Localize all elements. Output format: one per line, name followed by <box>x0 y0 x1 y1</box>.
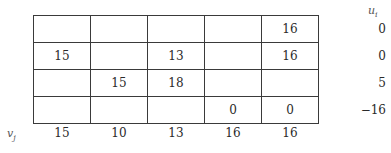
table-cell: 16 <box>262 43 319 70</box>
table-row: 15 13 16 <box>34 43 319 70</box>
v-value: 16 <box>262 126 318 140</box>
u-value: 5 <box>326 76 386 90</box>
u-value: −16 <box>326 103 386 117</box>
table-cell: 0 <box>205 97 262 124</box>
table-row: 0 0 <box>34 97 319 124</box>
table-cell: 15 <box>91 70 148 97</box>
table-row: 16 <box>34 16 319 43</box>
u-value: 0 <box>326 22 386 36</box>
v-value: 16 <box>205 126 261 140</box>
v-value: 15 <box>34 126 90 140</box>
table-cell <box>205 16 262 43</box>
table-cell <box>148 97 205 124</box>
table-cell: 0 <box>262 97 319 124</box>
v-label: vj <box>7 127 16 142</box>
table-cell <box>91 97 148 124</box>
table-cell <box>91 16 148 43</box>
table-cell <box>205 43 262 70</box>
table-cell: 15 <box>34 43 91 70</box>
table-cell <box>262 70 319 97</box>
table-cell <box>148 16 205 43</box>
v-value: 13 <box>148 126 204 140</box>
table-cell: 13 <box>148 43 205 70</box>
table-cell: 16 <box>262 16 319 43</box>
table-cell <box>34 70 91 97</box>
transportation-table: 16 15 13 16 15 18 0 0 <box>33 15 319 124</box>
v-value: 10 <box>91 126 147 140</box>
table-row: 15 18 <box>34 70 319 97</box>
u-label: ui <box>368 4 378 19</box>
table-cell <box>205 70 262 97</box>
table-cell <box>91 43 148 70</box>
table-cell <box>34 16 91 43</box>
u-value: 0 <box>326 49 386 63</box>
table-cell <box>34 97 91 124</box>
v-potentials-row: vj 15 10 13 16 16 <box>0 124 391 144</box>
table-cell: 18 <box>148 70 205 97</box>
